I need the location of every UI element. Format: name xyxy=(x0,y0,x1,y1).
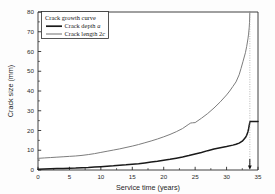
x-tick-label: 30 xyxy=(223,173,230,180)
chart-legend: Crack growth curve Crack depth a Crack l… xyxy=(42,12,109,39)
chart-canvas: 01020304050607080 05101520253035 Service… xyxy=(0,0,275,194)
y-tick-label: 0 xyxy=(31,166,35,173)
y-tick-label: 70 xyxy=(27,28,34,35)
x-tick-label: 0 xyxy=(36,173,40,180)
x-axis-title: Service time (years) xyxy=(116,183,180,192)
x-tick-label: 5 xyxy=(68,173,72,180)
y-tick-label: 40 xyxy=(27,87,34,94)
crack-growth-chart-figure: 01020304050607080 05101520253035 Service… xyxy=(0,0,275,194)
x-tick-label: 10 xyxy=(97,173,104,180)
x-tick-label: 25 xyxy=(192,173,199,180)
y-tick-label: 80 xyxy=(27,8,34,15)
x-tick-label: 35 xyxy=(255,173,262,180)
y-tick-label: 60 xyxy=(27,48,34,55)
legend-label-crack-depth: Crack depth a xyxy=(65,22,101,29)
y-tick-label: 30 xyxy=(27,107,34,114)
y-tick-label: 10 xyxy=(27,146,34,153)
legend-label-crack-length: Crack length 2c xyxy=(65,30,106,37)
y-axis-title: Crack size (mm) xyxy=(6,65,15,117)
legend-title: Crack growth curve xyxy=(45,14,96,21)
y-tick-label: 50 xyxy=(27,67,34,74)
y-tick-label: 20 xyxy=(27,127,34,134)
x-tick-label: 15 xyxy=(129,173,136,180)
x-tick-label: 20 xyxy=(160,173,167,180)
